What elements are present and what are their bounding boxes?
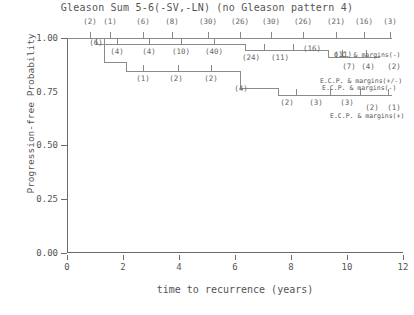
at-risk-label: (16) <box>299 44 325 53</box>
at-risk-label: (2) <box>381 62 407 71</box>
at-risk-label: (3) <box>303 98 329 107</box>
censor-tick <box>336 32 337 39</box>
censor-tick <box>208 32 209 39</box>
y-axis-line <box>67 38 68 253</box>
x-axis-title: time to recurrence (years) <box>67 284 403 295</box>
at-risk-label: (6) <box>130 17 156 26</box>
x-tick-mark-4 <box>179 255 180 260</box>
censor-tick <box>264 44 265 51</box>
censor-tick <box>181 38 182 45</box>
at-risk-label: (24) <box>238 53 264 62</box>
at-risk-label: (30) <box>258 17 284 26</box>
series-oc-line <box>67 38 392 39</box>
censor-tick <box>143 65 144 72</box>
censor-tick <box>271 32 272 39</box>
series-ecp-pm-step <box>328 50 329 57</box>
at-risk-label: (4) <box>104 47 130 56</box>
series-ecp-pm-seg <box>96 44 245 45</box>
at-risk-label: (2) <box>198 74 224 83</box>
y-tick-mark-0.00 <box>61 253 67 254</box>
censor-tick <box>240 32 241 39</box>
at-risk-label: (16) <box>351 17 377 26</box>
censor-tick <box>296 89 297 96</box>
series-ecp-pos-seg <box>104 62 126 63</box>
censor-tick <box>303 32 304 39</box>
censor-tick <box>211 65 212 72</box>
at-risk-label: (26) <box>227 17 253 26</box>
at-risk-label: (2) <box>274 98 300 107</box>
chart-canvas: Gleason Sum 5-6(-SV,-LN) (no Gleason pat… <box>0 0 414 315</box>
at-risk-label: (4) <box>355 62 381 71</box>
series-ecp-pos-seg <box>67 38 104 39</box>
at-risk-label: (4) <box>228 84 254 93</box>
at-risk-label: (2) <box>163 74 189 83</box>
at-risk-label: (8) <box>159 17 185 26</box>
censor-tick <box>178 65 179 72</box>
series-ecp-pos-step <box>104 38 105 62</box>
x-tick-label-6: 6 <box>225 262 245 272</box>
x-tick-mark-2 <box>123 255 124 260</box>
censor-tick <box>117 38 118 45</box>
y-tick-label-0.00: 0.00 <box>20 248 58 258</box>
at-risk-label: (21) <box>323 17 349 26</box>
series-ecp-pos-step <box>126 62 127 71</box>
y-axis-title: Progression-free Probability <box>25 24 36 204</box>
at-risk-label: (11) <box>267 53 293 62</box>
series-ecp-pos-step <box>278 88 279 95</box>
x-tick-mark-6 <box>235 255 236 260</box>
censor-tick <box>172 32 173 39</box>
censor-tick <box>293 44 294 51</box>
at-risk-label: (4) <box>136 47 162 56</box>
censor-tick <box>143 32 144 39</box>
censor-tick <box>364 32 365 39</box>
chart-title: Gleason Sum 5-6(-SV,-LN) (no Gleason pat… <box>0 2 414 13</box>
x-tick-label-12: 12 <box>393 262 413 272</box>
at-risk-label: (26) <box>290 17 316 26</box>
x-tick-label-4: 4 <box>169 262 189 272</box>
x-tick-label-2: 2 <box>113 262 133 272</box>
censor-tick <box>110 32 111 39</box>
y-tick-mark-0.25 <box>61 199 67 200</box>
x-axis-line <box>67 252 403 253</box>
legend-label-ecp-margins-neg: E.C.P. & margins(-) <box>322 84 396 92</box>
legend-label-oc-margins-neg: O.C. & margins(-) <box>334 51 401 59</box>
at-risk-label: (10) <box>168 47 194 56</box>
legend-label-ecp-margins-pos: E.C.P. & margins(+) <box>330 112 404 120</box>
censor-tick <box>390 32 391 39</box>
at-risk-label: (30) <box>195 17 221 26</box>
x-tick-mark-8 <box>291 255 292 260</box>
censor-tick <box>214 38 215 45</box>
x-tick-label-10: 10 <box>337 262 357 272</box>
at-risk-label: (1) <box>381 103 407 112</box>
at-risk-label: (40) <box>201 47 227 56</box>
x-tick-mark-0 <box>67 255 68 260</box>
at-risk-label: (3) <box>334 98 360 107</box>
x-tick-label-0: 0 <box>57 262 77 272</box>
at-risk-label: (1) <box>130 74 156 83</box>
censor-tick <box>149 38 150 45</box>
at-risk-label: (1) <box>97 17 123 26</box>
x-tick-label-8: 8 <box>281 262 301 272</box>
at-risk-label: (3) <box>377 17 403 26</box>
x-tick-mark-12 <box>403 255 404 260</box>
x-tick-mark-10 <box>347 255 348 260</box>
y-tick-mark-0.50 <box>61 145 67 146</box>
at-risk-label: (6) <box>83 38 109 47</box>
